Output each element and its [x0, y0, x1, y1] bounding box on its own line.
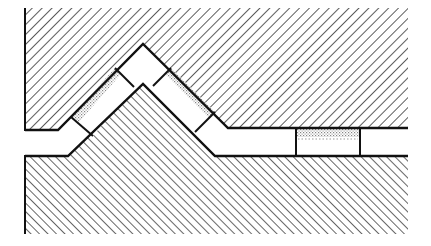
channel-cross-section-diagram [0, 0, 431, 246]
diagram-canvas [0, 0, 431, 246]
